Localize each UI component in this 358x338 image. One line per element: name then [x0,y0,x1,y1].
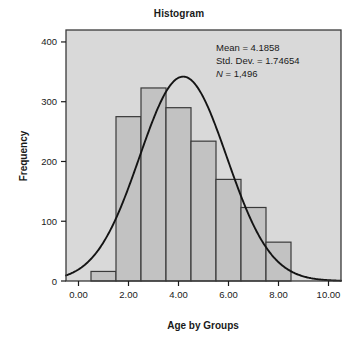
annotation-stddev: Std. Dev. = 1.74654 [216,55,300,66]
histogram-bar [91,271,116,281]
histogram-bar [191,141,216,281]
x-axis-tick-label: 8.00 [269,289,288,300]
histogram-figure: Histogram 0100200300400 0.002.004.006.00… [0,0,358,338]
y-axis-tick-label: 400 [41,36,57,47]
annotation-n: N = 1,496 [216,68,257,79]
histogram-bar [241,207,266,281]
histogram-bar [166,108,191,281]
x-axis-tick-label: 2.00 [119,289,138,300]
y-axis-tick-label: 100 [41,216,57,227]
y-axis: 0100200300400 [41,36,66,286]
x-axis-tick-label: 0.00 [69,289,88,300]
x-axis-tick-label: 10.00 [317,289,341,300]
histogram-bar [116,117,141,281]
y-axis-title: Frequency [18,130,29,181]
histogram-plot: 0100200300400 0.002.004.006.008.0010.00 … [0,0,358,338]
y-axis-tick-label: 200 [41,156,57,167]
annotation-n-value: = 1,496 [223,68,258,79]
y-axis-tick-label: 0 [52,276,57,287]
x-axis-title: Age by Groups [167,320,239,331]
y-axis-tick-label: 300 [41,96,57,107]
histogram-bar [216,179,241,281]
x-axis: 0.002.004.006.008.0010.00 [69,281,340,300]
x-axis-tick-label: 6.00 [219,289,238,300]
annotation-mean: Mean = 4.1858 [216,42,280,53]
x-axis-tick-label: 4.00 [169,289,188,300]
